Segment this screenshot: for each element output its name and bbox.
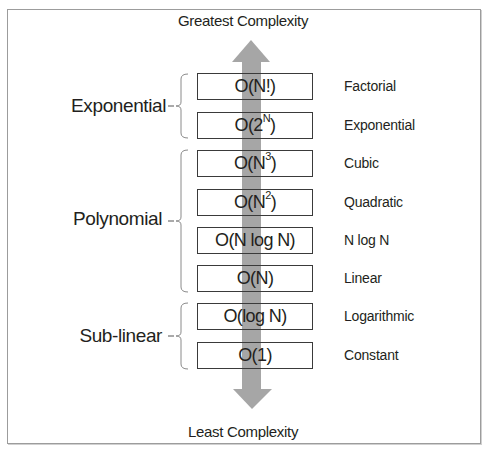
group-label-sub-linear: Sub-linear (40, 325, 162, 347)
arrow-up-head (232, 40, 270, 62)
complexity-exponent: 3 (265, 150, 271, 162)
arrow-down-head (233, 389, 272, 409)
complexity-notation: O(N (234, 153, 265, 173)
complexity-notation: O(N) (237, 268, 274, 288)
complexity-box: O(2N) (197, 112, 313, 139)
complexity-exponent: N (263, 112, 270, 124)
bracket-sub-linear (176, 303, 188, 369)
complexity-notation: O(2 (235, 115, 263, 135)
bracket-exponential (176, 74, 188, 138)
complexity-box: O(1) (197, 342, 313, 369)
complexity-notation: O(1) (238, 345, 272, 365)
complexity-exponent: 2 (265, 189, 271, 201)
complexity-notation: O(N!) (235, 76, 276, 96)
complexity-name: Constant (344, 342, 398, 369)
top-label: Greatest Complexity (0, 12, 486, 29)
complexity-box: O(log N) (197, 303, 313, 330)
complexity-box: O(N2) (197, 189, 313, 216)
complexity-box: O(N3) (197, 150, 313, 177)
complexity-notation-close: ) (271, 192, 276, 212)
group-label-exponential: Exponential (40, 95, 166, 117)
complexity-name: Logarithmic (344, 303, 414, 330)
complexity-name: Linear (344, 265, 382, 292)
complexity-notation: O(N log N) (215, 230, 295, 250)
group-label-polynomial: Polynomial (40, 208, 162, 230)
complexity-notation: O(log N) (223, 306, 286, 326)
group-brackets (168, 74, 188, 369)
complexity-box: O(N) (197, 265, 313, 292)
bottom-label: Least Complexity (0, 423, 486, 440)
complexity-name: Cubic (344, 150, 379, 177)
complexity-notation: O(N (234, 192, 265, 212)
bracket-polynomial (176, 150, 188, 292)
complexity-name: Quadratic (344, 189, 403, 216)
arrow-shaft (242, 61, 261, 390)
complexity-name: Factorial (344, 73, 396, 100)
complexity-notation-close: ) (270, 115, 275, 135)
complexity-name: Exponential (344, 112, 415, 139)
complexity-box: O(N!) (197, 73, 313, 100)
complexity-box: O(N log N) (197, 227, 313, 254)
complexity-notation-close: ) (271, 153, 276, 173)
complexity-name: N log N (344, 227, 389, 254)
